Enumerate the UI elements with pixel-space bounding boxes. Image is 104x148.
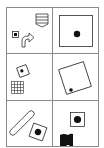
tilted-square-large-dot-icon <box>29 123 47 141</box>
puzzle-diagram <box>0 0 104 148</box>
square-large-dot-icon <box>71 113 85 127</box>
cell-r2-c1 <box>12 65 30 94</box>
small-square-dot-icon <box>13 32 19 38</box>
cell-r3-c2 <box>60 113 85 147</box>
cell-r1-c2 <box>60 16 93 47</box>
dot-icon <box>74 31 80 37</box>
cell-r3-c1 <box>9 110 47 141</box>
tilted-square-dot-icon <box>17 65 30 78</box>
striped-shield-icon <box>36 14 48 27</box>
large-tilted-square-icon <box>59 62 92 95</box>
grid-square-icon <box>12 82 24 94</box>
cell-r1-c1 <box>13 14 49 47</box>
dot-icon <box>69 88 73 92</box>
cell-r2-c2 <box>59 62 92 95</box>
curved-arrow-icon <box>22 33 34 47</box>
black-flag-icon <box>60 134 73 146</box>
